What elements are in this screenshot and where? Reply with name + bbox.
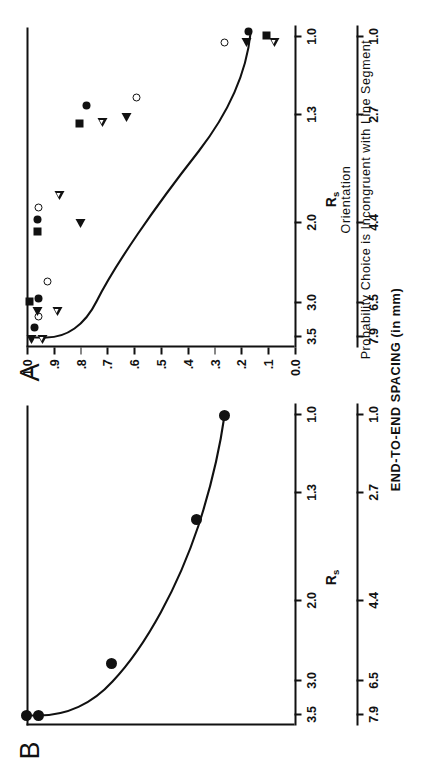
panel-b-point-rs-3-0: [33, 710, 44, 721]
panel-a-ylabel-6: .4: [181, 359, 195, 389]
panel-a-xlabel-2: 2.0: [304, 214, 318, 230]
panel-b-spacing-label-1: 6.5: [366, 672, 380, 688]
panel-a-xlabel-1: 3.0: [304, 294, 318, 310]
panel-b-xlabel-2: 2.0: [304, 592, 318, 608]
panel-b-x-axis-title: Rs: [322, 569, 338, 584]
panel-a-ylabel-1: .9: [47, 359, 61, 389]
panel-a-ylabel-5: .5: [154, 359, 168, 389]
y-axis-title-line2: Orientation: [338, 165, 352, 233]
panel-a-ytick-5: [160, 347, 162, 354]
rs-title-base: R: [322, 575, 338, 585]
panel-a-ytick-1: [53, 347, 55, 354]
panel-b-point-rs-3-5: [21, 710, 32, 721]
panel-b-fit-curve: [26, 405, 294, 725]
panel-a-x-axis-line: [294, 25, 296, 347]
panel-b-spacing-tick-4: [356, 413, 363, 415]
panel-a-ytick-10: [294, 347, 296, 354]
panel-a-point-sq-filled-1-0: [262, 31, 270, 39]
panel-a-xtick-3: [294, 113, 301, 115]
panel-a-ytick-4: [133, 347, 135, 354]
panel-a-ytick-3: [106, 347, 108, 354]
panel-a-ytick-7: [214, 347, 216, 354]
panel-a-point-sq-filled-3-0: [25, 297, 33, 305]
panel-b-xlabel-0: 3.5: [304, 706, 318, 722]
panel-a-ytick-8: [240, 347, 242, 354]
panel-b-x-axis-line: [294, 403, 296, 725]
panel-b: B 3.5 3.: [0, 389, 441, 777]
panel-b-spacing-label-3: 2.7: [366, 484, 380, 500]
panel-a-point-tri-open-1-3: [97, 118, 107, 127]
panel-a-ylabel-7: .3: [208, 359, 222, 389]
panel-b-point-rs-1-0: [219, 410, 230, 421]
panel-a-ylabel-9: .1: [261, 359, 275, 389]
panel-a-xtick-2: [294, 221, 301, 223]
panel-a-ylabel-3: .7: [100, 359, 114, 389]
panel-a-point-tri-filled-1-3: [121, 113, 131, 122]
panel-b-spacing-tick-2: [356, 599, 363, 601]
panel-a-ytick-2: [80, 347, 82, 354]
panel-a-point-circ-open-1-3: [132, 93, 140, 101]
panel-b-letter: B: [14, 741, 45, 759]
panel-a-point-tri-filled-2-0: [75, 219, 85, 228]
panel-b-xlabel-4: 1.0: [304, 406, 318, 422]
panel-a-point-tri-open-3-5: [37, 335, 47, 344]
panel-b-xtick-0: [294, 713, 301, 715]
panel-a-ylabel-0: 1.0: [20, 359, 34, 389]
spacing-axis-title: END-TO-END SPACING (in mm): [388, 287, 402, 490]
panel-b-xtick-2: [294, 599, 301, 601]
panel-b-xtick-3: [294, 491, 301, 493]
panel-a-point-circ-filled-1-3: [82, 101, 90, 109]
panel-a-point-sq-filled-2-0: [33, 227, 41, 235]
panel-a-point-circ-filled-3-5: [30, 323, 38, 331]
figure-page: B 3.5 3.: [0, 0, 441, 777]
y-axis-title-line1: Probability Choice is Incongruent with L…: [358, 39, 372, 359]
panel-b-spacing-label-4: 1.0: [366, 406, 380, 422]
panel-a-ylabel-10: 0.0: [288, 359, 302, 389]
panel-b-point-rs-2-0: [106, 658, 117, 669]
panel-a-point-tri-filled-1-0: [241, 38, 251, 47]
panel-a-xtick-0: [294, 335, 301, 337]
panel-a-point-circ-filled-2-0: [33, 215, 41, 223]
panel-b-xtick-4: [294, 413, 301, 415]
rotated-figure-container: B 3.5 3.: [0, 0, 441, 777]
panel-a-x-axis-title: Rs: [322, 191, 338, 206]
panel-b-xlabel-1: 3.0: [304, 672, 318, 688]
panel-b-spacing-label-2: 4.4: [366, 592, 380, 608]
panel-b-spacing-tick-1: [356, 679, 363, 681]
panel-a-xlabel-3: 1.3: [304, 106, 318, 122]
panel-b-spacing-tick-3: [356, 491, 363, 493]
panel-a-spacing-tick-4: [356, 35, 363, 37]
panel-a-point-tri-open-1-0: [269, 38, 279, 47]
panel-b-point-rs-1-3: [191, 514, 202, 525]
panel-a-point-sq-filled-1-3: [75, 119, 83, 127]
panel-a-ylabel-4: .6: [127, 359, 141, 389]
panel-a-point-circ-filled-3-0: [34, 294, 42, 302]
panel-b-plot-area: [26, 405, 294, 725]
panel-a-xlabel-0: 3.5: [304, 328, 318, 344]
panel-a-ylabel-8: .2: [234, 359, 248, 389]
panel-b-spacing-axis-line: [356, 403, 358, 725]
panel-a-point-tri-filled-3-5: [26, 335, 36, 344]
panel-a-ylabel-2: .8: [74, 359, 88, 389]
panel-b-xtick-1: [294, 679, 301, 681]
panel-a-point-tri-filled-3-0: [32, 307, 42, 316]
panel-b-spacing-label-0: 7.9: [366, 706, 380, 722]
panel-a-point-circ-open-1-0: [220, 38, 228, 46]
panel-a-xtick-1: [294, 301, 301, 303]
panel-a-ytick-6: [187, 347, 189, 354]
panel-b-spacing-tick-0: [356, 713, 363, 715]
rs-title-sub: s: [329, 569, 340, 574]
panel-a-ytick-0: [26, 347, 28, 354]
panel-a-xlabel-4: 1.0: [304, 28, 318, 44]
panel-a-xtick-4: [294, 35, 301, 37]
panel-a-plot-area: [26, 27, 294, 347]
panel-b-xlabel-3: 1.3: [304, 484, 318, 500]
panel-a-point-tri-open-2-0: [54, 191, 64, 200]
panel-a: A: [0, 0, 441, 389]
rs-title-base-a: R: [322, 197, 338, 207]
panel-a-fit-curve: [26, 27, 294, 347]
panel-a-point-tri-open-3-0: [52, 307, 62, 316]
panel-a-ytick-9: [267, 347, 269, 354]
panel-a-point-circ-open-2-0: [34, 203, 42, 211]
panel-a-point-circ-open-3-0: [43, 277, 51, 285]
